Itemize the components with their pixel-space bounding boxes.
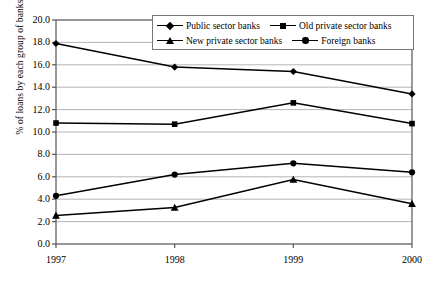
legend-entry-old-private-sector-banks[interactable]: Old private sector banks [270,20,402,31]
data-point-marker [53,120,59,126]
data-point-marker [291,100,297,106]
line-chart: % of loans by each group of banks 0.02.0… [0,0,430,281]
legend-label: Foreign banks [321,36,375,46]
data-point-marker [290,160,296,166]
legend-label: New private sector banks [186,36,282,46]
data-point-marker [409,169,415,175]
legend-row-1: Public sector banks Old private sector b… [157,18,409,33]
series-2 [53,100,415,127]
legend-entry-new-private-sector-banks[interactable]: New private sector banks [157,35,292,46]
data-point-marker [52,40,59,47]
series-line [56,180,412,216]
data-series [52,40,416,219]
legend-marker-square-icon [270,20,296,31]
legend-marker-diamond-icon [157,20,183,31]
axis-ticks [52,20,412,248]
legend-label: Public sector banks [186,21,260,31]
legend-entry-public-sector-banks[interactable]: Public sector banks [157,20,270,31]
legend-row-2: New private sector banks Foreign banks [157,33,409,48]
legend: Public sector banks Old private sector b… [152,15,414,50]
legend-label: Old private sector banks [299,21,392,31]
legend-marker-circle-icon [292,35,318,46]
series-line [56,103,412,124]
data-point-marker [408,90,415,97]
data-point-marker [409,121,415,127]
data-point-marker [290,68,297,75]
series-line [56,163,412,195]
legend-entry-foreign-banks[interactable]: Foreign banks [292,35,385,46]
legend-marker-triangle-icon [157,35,183,46]
series-line [56,44,412,94]
data-point-marker [53,193,59,199]
series-3 [52,176,416,219]
data-point-marker [172,121,178,127]
data-point-marker [172,171,178,177]
